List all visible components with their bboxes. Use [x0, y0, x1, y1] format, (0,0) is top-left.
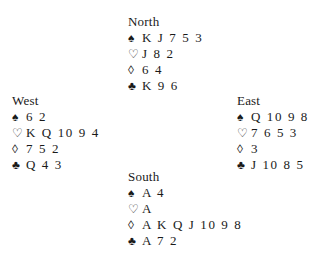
west-spades-cards: 6 2	[26, 109, 47, 124]
south-clubs: ♣A 7 2	[128, 233, 242, 249]
heart-icon: ♡	[128, 201, 142, 217]
spade-icon: ♠	[237, 109, 251, 125]
east-diamonds-cards: 3	[251, 141, 259, 156]
north-clubs-cards: K 9 6	[142, 78, 179, 93]
west-clubs-cards: Q 4 3	[26, 157, 63, 172]
east-spades: ♠Q 10 9 8	[237, 109, 309, 125]
west-hand: West ♠6 2 ♡K Q 10 9 4 ◊7 5 2 ♣Q 4 3	[12, 93, 100, 173]
south-diamonds-cards: A K Q J 10 9 8	[142, 217, 242, 232]
north-hearts-cards: J 8 2	[142, 46, 175, 61]
east-clubs-cards: J 10 8 5	[251, 157, 305, 172]
south-hearts: ♡A	[128, 201, 242, 217]
club-icon: ♣	[12, 157, 26, 173]
west-diamonds: ◊7 5 2	[12, 141, 100, 157]
north-diamonds-cards: 6 4	[142, 62, 163, 77]
north-title: North	[128, 14, 203, 30]
north-hearts: ♡J 8 2	[128, 46, 203, 62]
west-title: West	[12, 93, 100, 109]
east-hand: East ♠Q 10 9 8 ♡7 6 5 3 ◊3 ♣J 10 8 5	[237, 93, 309, 173]
north-spades-cards: K J 7 5 3	[142, 30, 203, 45]
diamond-icon: ◊	[12, 141, 26, 157]
east-spades-cards: Q 10 9 8	[251, 109, 309, 124]
west-hearts-cards: K Q 10 9 4	[26, 125, 100, 140]
east-title: East	[237, 93, 309, 109]
south-clubs-cards: A 7 2	[142, 233, 178, 248]
south-hand: South ♠A 4 ♡A ◊A K Q J 10 9 8 ♣A 7 2	[128, 169, 242, 249]
north-spades: ♠K J 7 5 3	[128, 30, 203, 46]
west-spades: ♠6 2	[12, 109, 100, 125]
south-spades: ♠A 4	[128, 185, 242, 201]
east-clubs: ♣J 10 8 5	[237, 157, 309, 173]
south-hearts-cards: A	[142, 201, 153, 216]
club-icon: ♣	[128, 78, 142, 94]
west-clubs: ♣Q 4 3	[12, 157, 100, 173]
south-spades-cards: A 4	[142, 185, 165, 200]
spade-icon: ♠	[12, 109, 26, 125]
west-diamonds-cards: 7 5 2	[26, 141, 60, 156]
club-icon: ♣	[128, 233, 142, 249]
north-hand: North ♠K J 7 5 3 ♡J 8 2 ◊6 4 ♣K 9 6	[128, 14, 203, 94]
south-title: South	[128, 169, 242, 185]
east-diamonds: ◊3	[237, 141, 309, 157]
north-diamonds: ◊6 4	[128, 62, 203, 78]
diamond-icon: ◊	[237, 141, 251, 157]
heart-icon: ♡	[12, 125, 26, 141]
spade-icon: ♠	[128, 185, 142, 201]
north-clubs: ♣K 9 6	[128, 78, 203, 94]
east-hearts-cards: 7 6 5 3	[251, 125, 298, 140]
heart-icon: ♡	[237, 125, 251, 141]
east-hearts: ♡7 6 5 3	[237, 125, 309, 141]
diamond-icon: ◊	[128, 217, 142, 233]
west-hearts: ♡K Q 10 9 4	[12, 125, 100, 141]
heart-icon: ♡	[128, 46, 142, 62]
diamond-icon: ◊	[128, 62, 142, 78]
spade-icon: ♠	[128, 30, 142, 46]
south-diamonds: ◊A K Q J 10 9 8	[128, 217, 242, 233]
